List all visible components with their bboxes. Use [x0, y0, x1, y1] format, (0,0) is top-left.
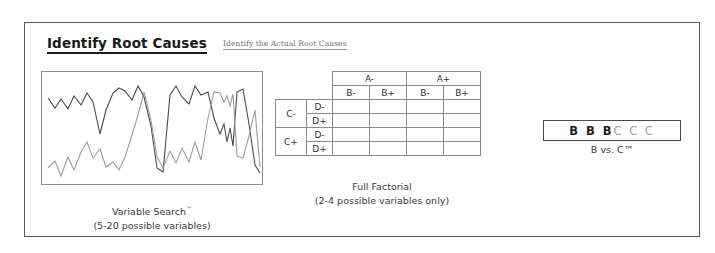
data-cell[interactable] [370, 100, 407, 114]
variable-search-caption-line1: Variable Search™ [41, 202, 263, 219]
col-group-header-a-plus: A+ [407, 72, 481, 86]
data-cell[interactable] [444, 114, 481, 128]
full-factorial-caption: Full Factorial (2-4 possible variables o… [269, 180, 495, 208]
variable-search-caption: Variable Search™ (5-20 possible variable… [41, 202, 263, 233]
page-subtitle: Identify the Actual Root Causes [223, 39, 347, 50]
data-cell[interactable] [370, 114, 407, 128]
data-cell[interactable] [444, 128, 481, 142]
b-vs-c-panel: B B BC C C B vs. C™ [537, 120, 687, 155]
col-sub-header-3: B+ [444, 86, 481, 100]
data-cell[interactable] [333, 114, 370, 128]
data-cell[interactable] [333, 142, 370, 156]
full-factorial-panel: A- A+ B- B+ B- B+ C- D- [269, 71, 495, 208]
b-vs-c-box: B B BC C C [543, 120, 681, 141]
b-vs-c-caption: B vs. C™ [537, 144, 687, 155]
row-sub-header-1: D+ [307, 114, 333, 128]
table-corner-blank-1 [276, 72, 307, 86]
row-sub-header-0: D- [307, 100, 333, 114]
page-title: Identify Root Causes [47, 35, 207, 54]
data-cell[interactable] [407, 142, 444, 156]
data-cell[interactable] [407, 128, 444, 142]
col-sub-header-2: B- [407, 86, 444, 100]
row-group-header-c-minus: C- [276, 100, 307, 128]
col-group-header-a-minus: A- [333, 72, 407, 86]
row-sub-header-2: D- [307, 128, 333, 142]
data-cell[interactable] [370, 142, 407, 156]
full-factorial-caption-line1: Full Factorial [269, 180, 495, 194]
full-factorial-caption-line2: (2-4 possible variables only) [269, 194, 495, 208]
variable-search-panel: Variable Search™ (5-20 possible variable… [41, 71, 263, 233]
table-row-col-group-header: A- A+ [276, 72, 481, 86]
data-cell[interactable] [370, 128, 407, 142]
data-cell[interactable] [333, 128, 370, 142]
table-row: D+ [276, 142, 481, 156]
variable-search-caption-line2: (5-20 possible variables) [41, 219, 263, 233]
variable-search-plot [42, 72, 262, 184]
variable-search-chart [41, 71, 263, 185]
table-row: C+ D- [276, 128, 481, 142]
col-sub-header-0: B- [333, 86, 370, 100]
full-factorial-table: A- A+ B- B+ B- B+ C- D- [275, 71, 481, 156]
slide-frame: Identify Root Causes Identify the Actual… [24, 22, 700, 237]
b-group-label: B B B [569, 124, 613, 138]
row-sub-header-3: D+ [307, 142, 333, 156]
table-row: C- D- [276, 100, 481, 114]
table-row-col-sub-header: B- B+ B- B+ [276, 86, 481, 100]
variable-search-label: Variable Search [112, 206, 186, 217]
data-cell[interactable] [333, 100, 370, 114]
table-corner-blank-4 [307, 86, 333, 100]
data-cell[interactable] [444, 100, 481, 114]
row-group-header-c-plus: C+ [276, 128, 307, 156]
data-cell[interactable] [444, 142, 481, 156]
data-cell[interactable] [407, 100, 444, 114]
trademark-symbol: ™ [186, 205, 192, 212]
table-corner-blank-3 [276, 86, 307, 100]
table-corner-blank-2 [307, 72, 333, 86]
table-row: D+ [276, 114, 481, 128]
col-sub-header-1: B+ [370, 86, 407, 100]
data-cell[interactable] [407, 114, 444, 128]
c-group-label: C C C [613, 124, 654, 138]
